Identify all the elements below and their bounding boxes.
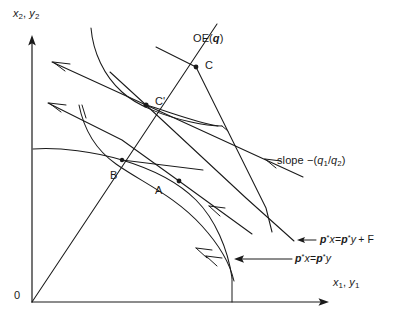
point-marker-C-prime: [143, 102, 148, 107]
tick-left-curve: [82, 105, 86, 118]
oe-prefix: OE(: [193, 32, 213, 44]
slope-prefix: slope −(: [277, 154, 317, 166]
eq1-plus-f: + F: [358, 233, 374, 245]
point-label-B: B: [110, 170, 117, 181]
eq2-rhs-y: y: [326, 252, 331, 264]
diagram-canvas: [0, 0, 413, 314]
production-possibility-frontier: [33, 149, 232, 278]
offer-expansion-curve-label: OE(q): [193, 33, 223, 44]
price-line-through-C: [156, 47, 272, 232]
point-label-A: A: [155, 185, 162, 196]
annot-arrow-budget-zero-profit: [234, 255, 292, 263]
oe-variable: q: [213, 32, 220, 44]
point-marker-B: [120, 158, 124, 162]
budget-line-zero-profit: [48, 103, 252, 234]
figure-root: x2, y2 x1, y1 0 OE(q) C C' B A slope −(q…: [0, 0, 413, 314]
point-marker-C: [194, 65, 199, 70]
slope-annotation: slope −(q1/q2): [277, 155, 345, 168]
price-line-through-C-prime-group: [110, 72, 294, 241]
budget-with-fee-annotation: p*x=p*y + F: [320, 234, 374, 245]
point-marker-A: [177, 179, 182, 184]
x-axis-label: x1, y1: [333, 277, 359, 290]
budget-line-with-fee-group: [52, 62, 303, 177]
axes-group: [28, 35, 329, 306]
budget-line-zero-profit-group: [48, 103, 252, 234]
budget-zero-profit-annotation: p*x=p*y: [295, 253, 331, 264]
slope-suffix: ): [342, 154, 346, 166]
annot-arrow-budget-with-fee: [297, 237, 316, 243]
inner-curve-arrowhead-2: [206, 256, 222, 266]
oe-suffix: ): [220, 32, 224, 44]
price-line-through-C-prime: [110, 72, 294, 241]
point-label-C: C: [205, 60, 213, 71]
budget-line-zero-profit-arrowhead-right: [209, 206, 225, 216]
ppf-group: [33, 149, 232, 302]
price-line-through-C-group: [156, 47, 272, 232]
eq1-rhs-y: y: [351, 233, 356, 245]
y-axis-label: x2, y2: [13, 8, 39, 21]
origin-label: 0: [14, 290, 20, 301]
inner-curve-arrows-group: [196, 248, 222, 266]
point-label-C-prime: C': [155, 96, 165, 107]
